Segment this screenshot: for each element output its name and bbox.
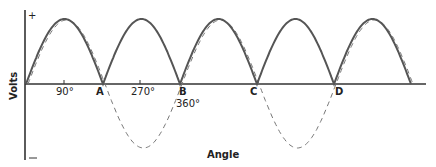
point-label-b: B — [179, 86, 187, 97]
y-axis-label: Volts — [8, 72, 19, 100]
x-axis-label: Angle — [207, 149, 239, 160]
rectified-wave-solid — [26, 19, 411, 84]
tick-label-270: 270° — [131, 86, 155, 97]
tick-label-90: 90° — [56, 86, 74, 97]
point-label-d: D — [335, 86, 343, 97]
rectifier-diagram: + 90° A 270° B 360° C D Angle Volts — [0, 0, 436, 167]
point-label-c: C — [250, 86, 257, 97]
tick-label-360: 360° — [176, 98, 200, 109]
point-label-a: A — [96, 86, 104, 97]
plus-sign: + — [28, 10, 36, 21]
